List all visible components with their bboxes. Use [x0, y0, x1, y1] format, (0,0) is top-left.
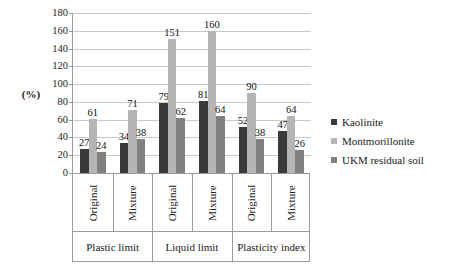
y-axis-tick-label: 40	[40, 132, 68, 142]
bar	[80, 149, 89, 173]
bar	[176, 118, 185, 173]
legend-swatch-icon	[331, 157, 337, 163]
bar	[128, 110, 137, 173]
legend-swatch-icon	[331, 119, 337, 125]
bar	[295, 150, 304, 173]
bar	[97, 152, 106, 173]
y-axis-tick-label: 0	[40, 168, 68, 178]
bar	[239, 127, 248, 173]
group-axis-band: Plastic limitLiquid limitPlasticity inde…	[72, 232, 310, 262]
group-label: Plasticity index	[237, 241, 305, 253]
category-separator	[232, 174, 233, 232]
bar-value-label: 160	[201, 19, 223, 30]
legend-item[interactable]: Kaolinite	[331, 112, 451, 131]
category-separator	[271, 174, 272, 232]
bar	[137, 139, 146, 173]
bar	[256, 139, 265, 173]
category-separator	[113, 174, 114, 232]
category-cell: Mixture	[192, 174, 232, 232]
bar-value-label: 38	[249, 127, 271, 138]
bar-value-label: 71	[122, 98, 144, 109]
bar	[216, 116, 225, 173]
legend-label: Kaolinite	[342, 116, 383, 128]
bar-value-label: 38	[130, 127, 152, 138]
bar-chart: (%) 180160140120100806040200 27612434713…	[0, 0, 455, 276]
group-label: Plastic limit	[86, 241, 139, 253]
category-label: Original	[245, 185, 257, 222]
category-cell: Original	[73, 174, 113, 232]
group-label: Liquid limit	[166, 241, 219, 253]
chart-legend: KaoliniteMontmorilloniteUKM residual soi…	[331, 112, 451, 169]
category-separator	[192, 174, 193, 232]
bar-value-label: 24	[90, 140, 112, 151]
category-label: Original	[166, 185, 178, 222]
category-label: Mixture	[126, 185, 138, 220]
bar-value-label: 64	[280, 104, 302, 115]
y-axis-tick-label: 160	[40, 26, 68, 36]
bar-value-label: 64	[209, 104, 231, 115]
legend-label: UKM residual soil	[342, 154, 424, 166]
y-axis-tick-label: 140	[40, 44, 68, 54]
y-axis-tick-label: 80	[40, 97, 68, 107]
bar	[208, 31, 217, 173]
y-axis-tick-label: 60	[40, 115, 68, 125]
legend-label: Montmorillonite	[342, 135, 415, 147]
y-axis-tick-labels: 180160140120100806040200	[40, 8, 68, 180]
plot-area: 27612434713879151628116064529038476426	[72, 13, 310, 173]
legend-item[interactable]: UKM residual soil	[331, 150, 451, 169]
category-cell: Original	[152, 174, 192, 232]
bar	[120, 143, 129, 173]
category-cell: Mixture	[113, 174, 153, 232]
bar-value-label: 90	[241, 81, 263, 92]
category-separator	[152, 174, 153, 232]
group-separator	[152, 232, 153, 262]
legend-swatch-icon	[331, 138, 337, 144]
category-label: Mixture	[206, 185, 218, 220]
bar	[278, 131, 287, 173]
y-axis-tick-label: 120	[40, 61, 68, 71]
y-axis-tick-label: 100	[40, 79, 68, 89]
y-axis-tick-label: 20	[40, 150, 68, 160]
group-cell: Plastic limit	[73, 232, 152, 262]
category-cell: Original	[232, 174, 272, 232]
category-cell: Mixture	[271, 174, 311, 232]
bar-value-label: 151	[161, 27, 183, 38]
bar-value-label: 26	[289, 138, 311, 149]
y-axis-tick-label: 180	[40, 8, 68, 18]
group-separator	[232, 232, 233, 262]
bars-layer: 27612434713879151628116064529038476426	[73, 13, 311, 173]
bar-value-label: 62	[170, 106, 192, 117]
category-axis-band: OriginalMixtureOriginalMixtureOriginalMi…	[72, 174, 310, 232]
bar	[199, 101, 208, 173]
legend-item[interactable]: Montmorillonite	[331, 131, 451, 150]
category-label: Original	[87, 185, 99, 222]
category-label: Mixture	[285, 185, 297, 220]
group-cell: Plasticity index	[232, 232, 311, 262]
group-cell: Liquid limit	[152, 232, 231, 262]
bar	[159, 103, 168, 173]
bar-value-label: 61	[82, 107, 104, 118]
